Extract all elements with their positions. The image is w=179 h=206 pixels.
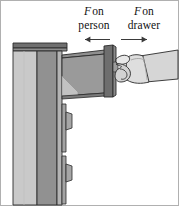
cabinet-edge-strip xyxy=(57,51,62,205)
lower-drawer-1-handle xyxy=(66,112,72,130)
physics-figure: Fon person Fon drawer xyxy=(0,0,179,206)
lower-drawer-2-face xyxy=(62,156,66,204)
lower-drawer-2-handle xyxy=(66,164,72,182)
drawer-front-panel xyxy=(104,45,113,97)
cabinet-left-face xyxy=(13,51,37,205)
counter-top-slab xyxy=(13,43,67,48)
cabinet xyxy=(13,43,67,205)
lower-drawer-1-face xyxy=(62,104,66,152)
cabinet-side-panel xyxy=(37,51,57,205)
figure-illustration xyxy=(0,0,179,206)
hand-gripping-drawer xyxy=(115,50,178,83)
